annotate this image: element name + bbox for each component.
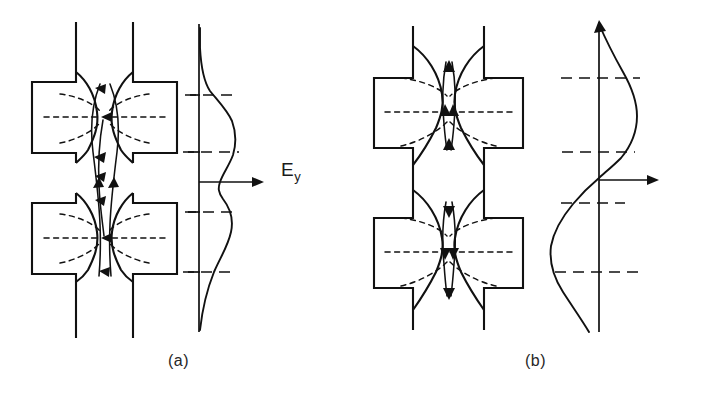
field-curve-b [551, 24, 637, 332]
direction-arrow-head-b [647, 175, 659, 185]
gridline-group-b [555, 78, 640, 272]
figure-root: Ey (a) [0, 0, 714, 399]
direction-arrow-head-a [252, 177, 264, 187]
panel-b: E·y (b) [357, 0, 714, 399]
panel-caption-b: (b) [357, 352, 714, 370]
panel-a: Ey (a) [0, 0, 357, 399]
field-axis-label-a: Ey [281, 160, 300, 179]
field-axis-label-a-subscript: y [294, 169, 301, 184]
panel-caption-a: (a) [0, 352, 357, 370]
direction-arrow-a [199, 177, 264, 187]
field-curve-arrowhead-b [594, 20, 606, 33]
field-profile-plot-a [0, 0, 357, 399]
gridline-group-a [183, 95, 239, 272]
field-profile-plot-b [357, 0, 714, 399]
field-axis-label-a-symbol: E [281, 159, 294, 180]
field-curve-a [200, 28, 235, 330]
direction-arrow-b [599, 175, 659, 185]
